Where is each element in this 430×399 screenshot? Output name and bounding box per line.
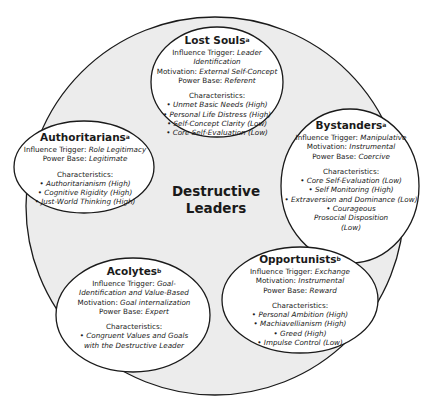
characteristic-item: Self-Concept Clarity (Low)	[152, 119, 282, 128]
motivation: Motivation: External Self-Concept	[152, 67, 282, 76]
node-authoritarians: Authoritariansa Influence Trigger: Role …	[20, 131, 150, 207]
characteristics-label: Characteristics:	[283, 167, 419, 176]
power-base: Power Base: Expert	[68, 307, 200, 316]
characteristic-item: Self Monitoring (High)	[283, 185, 419, 194]
characteristic-item: Core Self-Evaluation (Low)	[152, 128, 282, 137]
node-opportunists: Opportunistsb Influence Trigger: Exchang…	[232, 253, 368, 347]
node-title: Authoritariansa	[20, 131, 150, 144]
node-acolytes: Acolytesb Influence Trigger: Goal-Identi…	[68, 265, 200, 350]
motivation: Motivation: Goal internalization	[68, 298, 200, 307]
characteristics-label: Characteristics:	[68, 322, 200, 331]
characteristics-label: Characteristics:	[20, 170, 150, 179]
characteristic-item: Impulse Control (Low)	[232, 338, 368, 347]
characteristic-item: Just-World Thinking (High)	[20, 197, 150, 206]
node-title: Opportunistsb	[232, 253, 368, 266]
node-lost-souls: Lost Soulsa Influence Trigger: Leader Id…	[152, 34, 282, 138]
characteristic-item: Core Self-Evaluation (Low)	[283, 176, 419, 185]
node-title: Acolytesb	[68, 265, 200, 278]
characteristics-list: Core Self-Evaluation (Low) Self Monitori…	[283, 176, 419, 232]
characteristic-item: Greed (High)	[232, 329, 368, 338]
characteristic-item: Extraversion and Dominance (Low)	[283, 195, 419, 204]
node-bystanders: Bystandersa Influence Trigger: Manipulat…	[283, 119, 419, 232]
power-base: Power Base: Reward	[232, 286, 368, 295]
power-base: Power Base: Coercive	[283, 152, 419, 161]
characteristic-item: Machiavellianism (High)	[232, 319, 368, 328]
influence-trigger: Influence Trigger: Exchange	[232, 267, 368, 276]
center-label-line1: Destructive	[160, 183, 272, 200]
characteristic-item: Unmet Basic Needs (High)	[152, 100, 282, 109]
characteristics-list: Authoritarianism (High) Cognitive Rigidi…	[20, 179, 150, 207]
motivation: Motivation: Instrumental	[232, 276, 368, 285]
motivation: Motivation: Instrumental	[283, 142, 419, 151]
influence-trigger: Influence Trigger: Goal-Identification a…	[68, 279, 200, 298]
characteristic-item: Cognitive Rigidity (High)	[20, 188, 150, 197]
characteristics-list: Personal Ambition (High) Machiavellianis…	[232, 310, 368, 347]
characteristics-list: Congruent Values and Goals with the Dest…	[68, 331, 200, 350]
influence-trigger: Influence Trigger: Role Legitimacy	[20, 145, 150, 154]
characteristics-label: Characteristics:	[232, 301, 368, 310]
characteristic-item: Personal Life Distress (High)	[152, 110, 282, 119]
characteristic-item: Courageous Prosocial Disposition (Low)	[283, 204, 419, 232]
characteristics-list: Unmet Basic Needs (High) Personal Life D…	[152, 100, 282, 137]
influence-trigger: Influence Trigger: Leader Identification	[152, 48, 282, 67]
power-base: Power Base: Referent	[152, 76, 282, 85]
power-base: Power Base: Legitimate	[20, 154, 150, 163]
characteristics-label: Characteristics:	[152, 91, 282, 100]
characteristic-item: Personal Ambition (High)	[232, 310, 368, 319]
center-label-line2: Leaders	[160, 200, 272, 217]
characteristic-item: Authoritarianism (High)	[20, 179, 150, 188]
characteristic-item: Congruent Values and Goals with the Dest…	[68, 331, 200, 350]
node-title: Bystandersa	[283, 119, 419, 132]
node-title: Lost Soulsa	[152, 34, 282, 47]
center-label: Destructive Leaders	[160, 183, 272, 217]
influence-trigger: Influence Trigger: Manipulative	[283, 133, 419, 142]
